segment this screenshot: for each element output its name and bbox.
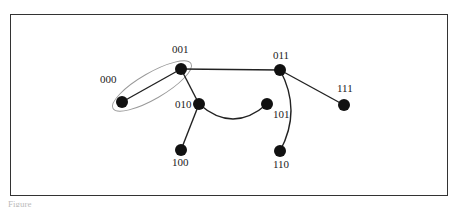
node-label-101: 101 <box>273 108 290 120</box>
node-101 <box>261 98 273 110</box>
edges <box>122 69 344 151</box>
nodes <box>116 63 350 157</box>
node-label-111: 111 <box>337 82 353 94</box>
node-label-100: 100 <box>172 156 189 168</box>
node-label-010: 010 <box>175 98 192 110</box>
node-111 <box>338 99 350 111</box>
node-label-011: 011 <box>273 49 289 61</box>
edge-010-100 <box>181 104 199 150</box>
node-001 <box>175 63 187 75</box>
edge-001-011 <box>181 69 280 70</box>
figure-caption: Figure <box>8 199 32 207</box>
edge-000-001 <box>122 69 181 102</box>
node-100 <box>175 144 187 156</box>
node-label-000: 000 <box>100 73 117 85</box>
node-label-001: 001 <box>172 43 189 55</box>
node-label-110: 110 <box>273 158 290 170</box>
node-labels: 000001010100101011110111 <box>100 43 353 170</box>
node-110 <box>274 145 286 157</box>
graph-canvas: 000001010100101011110111 <box>0 0 455 207</box>
node-011 <box>274 64 286 76</box>
node-010 <box>193 98 205 110</box>
edge-010-101 <box>199 104 267 119</box>
node-000 <box>116 96 128 108</box>
